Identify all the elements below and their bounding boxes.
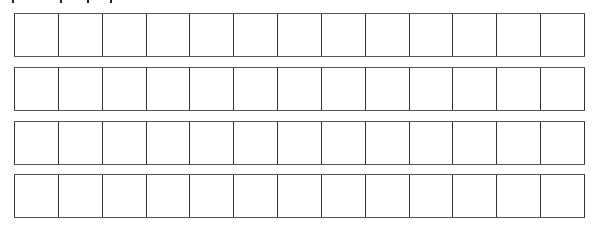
box-row-3 [14, 121, 585, 165]
box-row-1 [14, 13, 585, 57]
answer-box[interactable] [365, 175, 409, 217]
text-fragment-mark [110, 0, 112, 3]
answer-box[interactable] [146, 68, 190, 110]
answer-box[interactable] [452, 14, 496, 56]
answer-box[interactable] [189, 14, 233, 56]
answer-box[interactable] [277, 14, 321, 56]
answer-box[interactable] [540, 175, 585, 217]
answer-box[interactable] [496, 68, 540, 110]
answer-box[interactable] [321, 68, 365, 110]
answer-box[interactable] [58, 175, 102, 217]
answer-box[interactable] [365, 14, 409, 56]
answer-box[interactable] [14, 122, 58, 164]
answer-box[interactable] [14, 14, 58, 56]
answer-box[interactable] [58, 14, 102, 56]
text-fragment-mark [12, 0, 14, 3]
answer-box[interactable] [321, 122, 365, 164]
answer-box[interactable] [233, 68, 277, 110]
answer-box[interactable] [189, 175, 233, 217]
answer-box[interactable] [233, 122, 277, 164]
answer-box[interactable] [452, 175, 496, 217]
answer-box[interactable] [102, 175, 146, 217]
answer-box[interactable] [321, 175, 365, 217]
text-fragment-mark [87, 0, 89, 3]
answer-box[interactable] [233, 175, 277, 217]
answer-box[interactable] [409, 68, 453, 110]
answer-box[interactable] [102, 68, 146, 110]
answer-box[interactable] [540, 14, 585, 56]
box-row-4 [14, 174, 585, 218]
answer-box[interactable] [365, 68, 409, 110]
answer-box[interactable] [321, 14, 365, 56]
answer-box[interactable] [496, 14, 540, 56]
box-row-2 [14, 67, 585, 111]
answer-box[interactable] [233, 14, 277, 56]
answer-box[interactable] [102, 122, 146, 164]
answer-box[interactable] [540, 122, 585, 164]
answer-box[interactable] [102, 14, 146, 56]
answer-box[interactable] [14, 68, 58, 110]
answer-box[interactable] [146, 175, 190, 217]
answer-box[interactable] [14, 175, 58, 217]
answer-box[interactable] [58, 68, 102, 110]
answer-box[interactable] [452, 122, 496, 164]
answer-box[interactable] [146, 122, 190, 164]
answer-box[interactable] [365, 122, 409, 164]
answer-box[interactable] [496, 175, 540, 217]
answer-box[interactable] [277, 122, 321, 164]
answer-box[interactable] [277, 175, 321, 217]
answer-box[interactable] [540, 68, 585, 110]
answer-box[interactable] [189, 68, 233, 110]
answer-box[interactable] [58, 122, 102, 164]
answer-box[interactable] [452, 68, 496, 110]
answer-box[interactable] [409, 122, 453, 164]
answer-box[interactable] [146, 14, 190, 56]
answer-box[interactable] [189, 122, 233, 164]
answer-box[interactable] [409, 14, 453, 56]
answer-box[interactable] [496, 122, 540, 164]
text-fragment-mark [60, 0, 62, 3]
answer-box[interactable] [277, 68, 321, 110]
answer-box[interactable] [409, 175, 453, 217]
